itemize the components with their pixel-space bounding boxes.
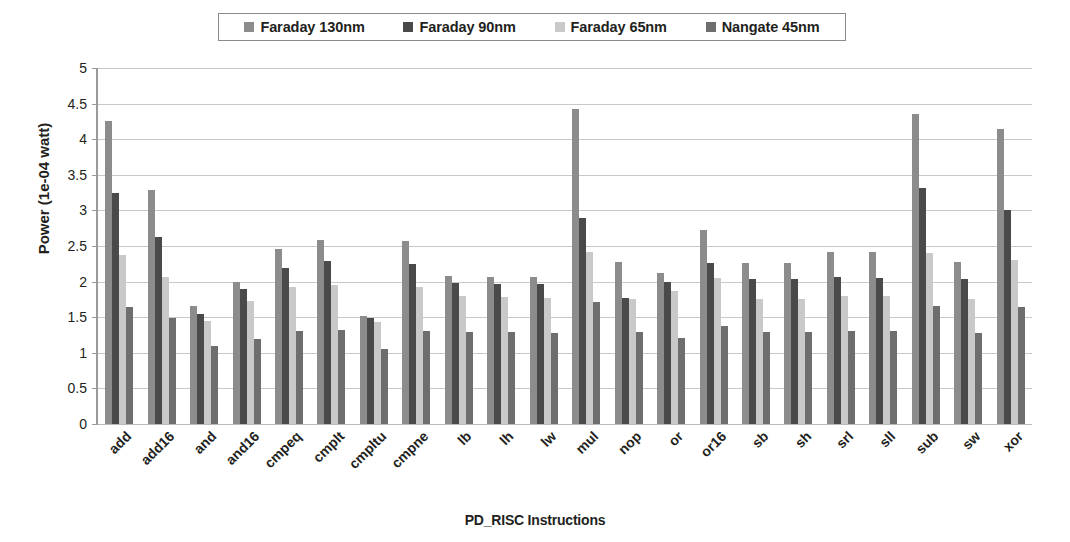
bar <box>572 109 579 424</box>
bar <box>233 282 240 424</box>
x-tick-label: or16 <box>697 428 729 460</box>
bar <box>126 307 133 424</box>
y-tick-label: 1 <box>79 345 87 361</box>
bar-group <box>353 68 395 424</box>
bar <box>615 262 622 424</box>
legend-swatch-icon <box>706 22 716 32</box>
bar-chart: Faraday 130nmFaraday 90nmFaraday 65nmNan… <box>0 0 1070 542</box>
x-tick-label: add <box>106 428 135 457</box>
bar <box>805 332 812 424</box>
bar-group <box>947 68 989 424</box>
bar-group <box>438 68 480 424</box>
bar <box>700 230 707 424</box>
bar <box>784 263 791 424</box>
bar <box>508 332 515 424</box>
bar <box>586 252 593 424</box>
legend-item[interactable]: Faraday 130nm <box>244 19 364 35</box>
legend-swatch-icon <box>244 22 254 32</box>
x-tick-label: nop <box>615 428 644 457</box>
bar <box>968 299 975 424</box>
x-tick-label: sub <box>912 428 941 457</box>
legend-label: Nangate 45nm <box>722 19 820 35</box>
bar <box>1018 307 1025 424</box>
bar <box>798 299 805 424</box>
bar <box>204 321 211 424</box>
x-tick-label: and16 <box>222 428 262 468</box>
bar-group <box>777 68 819 424</box>
legend-item[interactable]: Nangate 45nm <box>706 19 820 35</box>
bar <box>331 285 338 424</box>
x-tick-label: lb <box>454 428 474 448</box>
bar <box>240 289 247 424</box>
bar <box>169 318 176 424</box>
bar <box>876 278 883 424</box>
y-tick-label: 0 <box>79 416 87 432</box>
legend-item[interactable]: Faraday 90nm <box>403 19 515 35</box>
bar-group <box>735 68 777 424</box>
x-tick-label: sb <box>748 428 771 451</box>
plot-area: 00.511.522.533.544.55 <box>96 68 1032 425</box>
bar <box>997 129 1004 424</box>
bar-group <box>523 68 565 424</box>
bar <box>296 331 303 424</box>
y-tick-label: 3 <box>79 202 87 218</box>
bar <box>537 284 544 424</box>
bar <box>671 291 678 424</box>
legend-label: Faraday 90nm <box>419 19 515 35</box>
y-tick-label: 1.5 <box>68 309 87 325</box>
bar <box>487 277 494 424</box>
bar-group <box>862 68 904 424</box>
legend-swatch-icon <box>403 22 413 32</box>
bar <box>636 332 643 424</box>
bar <box>112 193 119 424</box>
bar <box>324 261 331 424</box>
bar <box>707 263 714 424</box>
bar <box>452 283 459 424</box>
bar-group <box>395 68 437 424</box>
bar <box>148 190 155 424</box>
bar <box>374 322 381 424</box>
bar <box>593 302 600 424</box>
bar <box>416 287 423 424</box>
bar-group <box>268 68 310 424</box>
x-axis-title: PD_RISC Instructions <box>0 512 1070 528</box>
bar <box>954 262 961 424</box>
bar <box>912 114 919 424</box>
y-tick-label: 5 <box>79 60 87 76</box>
bar <box>919 188 926 424</box>
x-tick-label: lw <box>537 428 559 450</box>
bar <box>530 277 537 424</box>
x-tick-label: cmpne <box>388 428 431 471</box>
bar <box>756 299 763 424</box>
bar <box>869 252 876 424</box>
bar <box>494 284 501 424</box>
bar <box>664 282 671 424</box>
bar <box>622 298 629 424</box>
bar-group <box>990 68 1032 424</box>
x-tick-label: add16 <box>137 428 177 468</box>
bar <box>657 273 664 424</box>
bar <box>1004 210 1011 424</box>
bar-group <box>480 68 522 424</box>
chart-legend: Faraday 130nmFaraday 90nmFaraday 65nmNan… <box>218 13 846 41</box>
x-tick-label: lh <box>497 428 517 448</box>
bar-group <box>183 68 225 424</box>
bar <box>714 278 721 424</box>
bar <box>254 339 261 424</box>
legend-item[interactable]: Faraday 65nm <box>555 19 667 35</box>
bar <box>629 299 636 424</box>
bar-group <box>820 68 862 424</box>
bar <box>544 298 551 424</box>
bar <box>975 333 982 424</box>
bar-group <box>140 68 182 424</box>
bar <box>501 297 508 424</box>
y-tick-label: 3.5 <box>68 167 87 183</box>
bar <box>197 314 204 424</box>
bar <box>155 237 162 424</box>
bar <box>459 296 466 424</box>
bar <box>933 306 940 424</box>
bar <box>579 218 586 424</box>
bar <box>317 240 324 424</box>
bar <box>423 331 430 424</box>
bar <box>749 279 756 424</box>
